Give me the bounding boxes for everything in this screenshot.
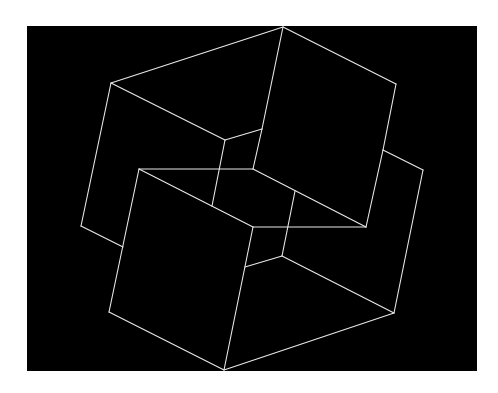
upper-cube-bottom-left-edge	[81, 226, 123, 247]
upper-cube-hidden-vertical	[212, 140, 225, 206]
lower-right-vertical	[366, 150, 383, 227]
upper-cube-top-right-edge	[283, 27, 396, 84]
figure-canvas	[0, 0, 498, 393]
upper-cube-top-left-edge	[111, 27, 283, 83]
inner-short-edge	[245, 256, 282, 267]
upper-cube-right-edge	[383, 84, 396, 150]
lower-cube-left-edge	[109, 169, 139, 312]
upper-cube-inner-diagonal	[111, 83, 225, 140]
upper-cube-left-edge	[81, 83, 111, 226]
right-cube-top-edge	[383, 150, 423, 170]
lower-cube-front-vertical	[224, 227, 253, 370]
upper-cube-inner-vertical-lower	[253, 129, 262, 169]
lower-cube-upper-diagonal	[139, 169, 253, 227]
right-cube-right-edge	[394, 170, 423, 313]
lower-cube-bottom-right-edge	[224, 313, 394, 370]
inner-diagonal-to-corner	[282, 256, 394, 313]
wireframe-cubes-drawing	[0, 0, 498, 393]
upper-cube-center-vertical	[262, 27, 283, 129]
center-diagonal	[253, 169, 366, 227]
lower-cube-bottom-left-edge	[109, 312, 224, 370]
inner-vertical	[282, 191, 295, 256]
upper-cube-inner-short	[225, 129, 262, 140]
